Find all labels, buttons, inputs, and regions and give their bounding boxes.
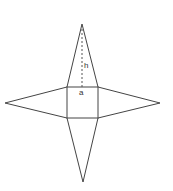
right-triangle-face	[98, 87, 160, 118]
left-triangle-face	[5, 87, 67, 118]
height-label: h	[84, 61, 88, 70]
pyramid-net-diagram: h a	[0, 0, 173, 191]
base-side-label: a	[79, 88, 84, 97]
bottom-triangle-face	[67, 118, 98, 182]
